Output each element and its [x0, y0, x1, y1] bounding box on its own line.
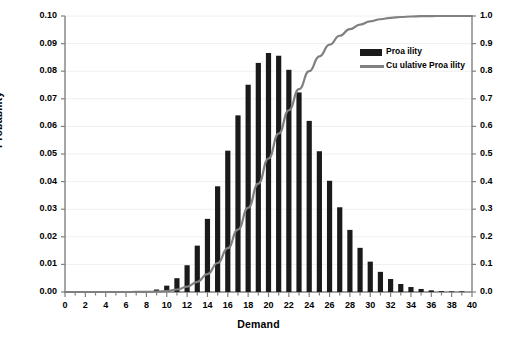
- y-axis-left-title: Probability: [0, 92, 4, 148]
- chart-plot-area: [0, 0, 517, 342]
- y-axis-right-tick: 0.0: [480, 286, 510, 296]
- y-axis-left-tick: 0.08: [13, 65, 57, 75]
- y-axis-right-tick: 0.9: [480, 38, 510, 48]
- y-axis-left-tick: 0.06: [13, 120, 57, 130]
- y-axis-right-tick: 0.6: [480, 120, 510, 130]
- y-axis-right-tick: 0.1: [480, 258, 510, 268]
- y-axis-left-tick: 0.01: [13, 258, 57, 268]
- y-axis-right-tick: 0.3: [480, 203, 510, 213]
- y-axis-right-tick: 0.5: [480, 148, 510, 158]
- y-axis-right-tick: 0.7: [480, 93, 510, 103]
- x-axis-tick: 40: [458, 300, 486, 310]
- y-axis-right-tick: 0.4: [480, 176, 510, 186]
- y-axis-left-tick: 0.02: [13, 231, 57, 241]
- y-axis-left-tick: 0.04: [13, 176, 57, 186]
- y-axis-left-tick: 0.09: [13, 38, 57, 48]
- x-axis-title: Demand: [0, 318, 517, 330]
- y-axis-right-tick: 0.2: [480, 231, 510, 241]
- legend-swatch-probability: [360, 49, 382, 56]
- y-axis-right-tick: 0.8: [480, 65, 510, 75]
- y-axis-left-tick: 0.03: [13, 203, 57, 213]
- y-axis-left-tick: 0.07: [13, 93, 57, 103]
- legend-swatch-cumulative-probability: [360, 65, 384, 68]
- y-axis-left-tick: 0.10: [13, 10, 57, 20]
- y-axis-left-tick: 0.05: [13, 148, 57, 158]
- legend-label-cumulative-probability: Cu ulative Proa ility: [386, 60, 465, 70]
- y-axis-left-tick: 0.00: [13, 286, 57, 296]
- legend-label-probability: Proa ility: [386, 46, 422, 56]
- chart-container: 0.000.010.020.030.040.050.060.070.080.09…: [0, 0, 517, 342]
- y-axis-right-tick: 1.0: [480, 10, 510, 20]
